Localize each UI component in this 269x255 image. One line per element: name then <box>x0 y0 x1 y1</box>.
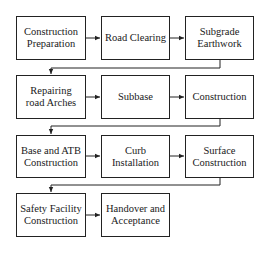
step-curb-installation: Curb Installation <box>101 135 170 178</box>
step-label: Handover and Acceptance <box>105 203 166 227</box>
step-label: Safety Facility Construction <box>20 203 82 227</box>
arrow-s6-s7 <box>51 118 220 134</box>
step-label: Base and ATB Construction <box>20 145 82 169</box>
step-label: Construction <box>192 91 246 103</box>
step-surface-construction: Surface Construction <box>185 135 254 178</box>
step-safety-facility-construction: Safety Facility Construction <box>16 193 86 237</box>
step-base-and-atb-construction: Base and ATB Construction <box>16 135 86 178</box>
step-road-clearing: Road Clearing <box>101 16 170 60</box>
step-label: Construction Preparation <box>20 26 82 50</box>
step-label: Surface Construction <box>189 145 250 169</box>
step-construction: Construction <box>185 75 254 119</box>
step-subbase: Subbase <box>101 75 170 119</box>
step-subgrade-earthwork: Subgrade Earthwork <box>185 16 254 60</box>
arrow-s9-s10 <box>51 177 220 192</box>
step-construction-preparation: Construction Preparation <box>16 16 86 60</box>
arrow-s3-s4 <box>51 59 220 74</box>
step-label: Curb Installation <box>105 145 166 169</box>
step-repairing-road-arches: Repairing road Arches <box>16 75 86 119</box>
step-label: Road Clearing <box>105 32 166 44</box>
step-label: Subgrade Earthwork <box>189 26 250 50</box>
step-label: Repairing road Arches <box>20 85 82 109</box>
flowchart-canvas: Construction Preparation Road Clearing S… <box>0 0 269 255</box>
step-handover-and-acceptance: Handover and Acceptance <box>101 193 170 237</box>
step-label: Subbase <box>118 91 153 103</box>
